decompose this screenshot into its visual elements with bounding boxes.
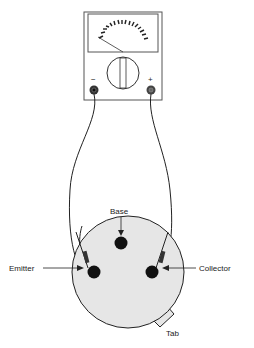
negative-terminal-label: − [91, 75, 96, 84]
transistor [72, 216, 184, 328]
tab-label: Tab [166, 329, 179, 338]
collector-label: Collector [199, 264, 231, 273]
selector-knob[interactable] [107, 57, 139, 89]
base-pin [115, 237, 128, 250]
transistor-test-diagram: − + Base Emitter Collector Tab [0, 0, 254, 348]
positive-terminal[interactable] [147, 86, 156, 95]
emitter-label: Emitter [9, 264, 35, 273]
collector-pin [146, 266, 159, 279]
emitter-pin [88, 266, 101, 279]
multimeter: − + [84, 12, 162, 100]
positive-terminal-label: + [148, 75, 153, 84]
base-label: Base [110, 207, 129, 216]
meter-dial-window [88, 14, 158, 52]
negative-terminal[interactable] [90, 86, 99, 95]
